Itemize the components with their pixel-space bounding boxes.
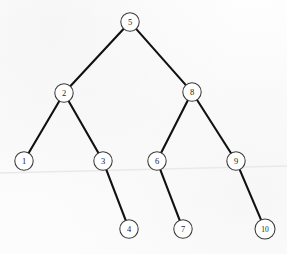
node-label-6: 6 <box>155 156 159 166</box>
node-label-10: 10 <box>261 225 269 234</box>
tree-edge-5-to-8 <box>136 29 186 86</box>
node-label-7: 7 <box>181 224 185 234</box>
tree-node-1[interactable]: 1 <box>15 152 33 170</box>
tree-edge-6-to-7 <box>160 169 180 220</box>
node-label-8: 8 <box>190 87 194 97</box>
node-label-9: 9 <box>234 156 238 166</box>
tree-node-8[interactable]: 8 <box>183 83 201 101</box>
tree-canvas: 52813694710 <box>0 0 287 254</box>
tree-node-3[interactable]: 3 <box>94 152 112 170</box>
tree-node-10[interactable]: 10 <box>255 219 275 239</box>
tree-edge-8-to-6 <box>161 100 188 153</box>
tree-node-7[interactable]: 7 <box>174 220 192 238</box>
node-label-2: 2 <box>62 88 66 98</box>
tree-node-9[interactable]: 9 <box>227 152 245 170</box>
tree-edge-3-to-4 <box>106 169 126 220</box>
tree-node-5[interactable]: 5 <box>121 13 139 31</box>
paper-crease-line <box>0 166 287 173</box>
node-layer: 52813694710 <box>15 13 275 239</box>
tree-edge-8-to-9 <box>197 100 231 154</box>
node-label-1: 1 <box>22 156 26 166</box>
tree-node-2[interactable]: 2 <box>55 84 73 102</box>
tree-edge-9-to-10 <box>239 169 261 220</box>
tree-edge-5-to-2 <box>70 29 124 87</box>
tree-edge-2-to-3 <box>68 101 98 154</box>
node-label-5: 5 <box>128 17 132 27</box>
tree-edge-2-to-1 <box>29 101 60 154</box>
binary-tree-figure: 52813694710 <box>0 0 287 254</box>
tree-node-4[interactable]: 4 <box>120 220 138 238</box>
node-label-3: 3 <box>101 156 105 166</box>
edge-layer <box>29 29 262 221</box>
tree-node-6[interactable]: 6 <box>148 152 166 170</box>
